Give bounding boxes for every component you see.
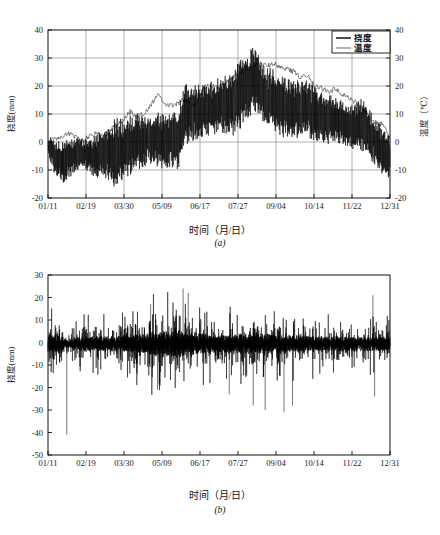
chart-a-ytick-label: 10 [35, 109, 44, 119]
chart-a-ytick-label: 0 [39, 137, 43, 147]
chart-b-series-residual [48, 292, 390, 395]
chart-a-yaxis-left-title: 挠度(mm) [6, 95, 16, 132]
chart-a-ytick-label: 30 [35, 53, 44, 63]
chart-a-xtick-label: 11/22 [342, 201, 361, 211]
chart-a-xtick-label: 05/09 [152, 201, 171, 211]
chart-a-ytick-label-right: 20 [395, 81, 404, 91]
chart-b-ytick-label: -10 [32, 360, 43, 370]
chart-a-xtick-label: 02/19 [76, 201, 95, 211]
chart-a-caption: (a) [0, 238, 440, 248]
chart-a-xaxis-label: 时间（月/日） [0, 222, 440, 237]
chart-b-ytick-label: -30 [32, 405, 43, 415]
chart-a-xtick-label: 01/11 [38, 201, 57, 211]
chart-a-ytick-label-right: 30 [395, 53, 404, 63]
chart-a-legend-label-1: 挠度 [354, 33, 372, 43]
chart-b-ytick-label: 30 [35, 270, 44, 280]
chart-b-ytick-label: -40 [32, 428, 43, 438]
chart-a-series-deflection [48, 48, 390, 186]
chart-b-xtick-label: 03/30 [114, 458, 133, 468]
chart-b-xaxis-label: 时间（月/日） [0, 487, 440, 502]
chart-b-xtick-label: 06/17 [190, 458, 209, 468]
chart-b-plot: -50-40-30-20-10010203001/1102/1903/3005/… [0, 265, 440, 490]
chart-b-xtick-label: 07/27 [228, 458, 247, 468]
chart-b-xtick-label: 12/31 [380, 458, 399, 468]
chart-b-caption: (b) [0, 505, 440, 515]
chart-a-ytick-label-right: 10 [395, 109, 404, 119]
chart-a-ytick-label-right: -10 [395, 165, 406, 175]
chart-b-ytick-label: 20 [35, 293, 44, 303]
chart-b-ytick-label: 0 [39, 338, 43, 348]
chart-b-xtick-label: 01/11 [38, 458, 57, 468]
chart-a-ytick-label-right: 0 [395, 137, 399, 147]
chart-a-xtick-label: 06/17 [190, 201, 209, 211]
chart-b-xtick-label: 11/22 [342, 458, 361, 468]
chart-a-legend-label-2: 温度 [354, 43, 372, 53]
chart-b-xtick-label: 05/09 [152, 458, 171, 468]
chart-a-ytick-label: -10 [32, 165, 43, 175]
chart-a-xtick-label: 07/27 [228, 201, 247, 211]
chart-a-xaxis: 01/1102/1903/3005/0906/1707/2709/0410/14… [38, 194, 399, 211]
chart-a-ytick-label-right: 40 [395, 25, 404, 35]
chart-a-xtick-label: 03/30 [114, 201, 133, 211]
chart-a-xtick-label: 10/14 [304, 201, 324, 211]
chart-a-legend: 挠度温度 [332, 31, 390, 53]
chart-a-yaxis-left: -20-10010203040 [32, 25, 52, 203]
chart-b-yaxis: -50-40-30-20-100102030 [32, 270, 52, 460]
chart-a-ytick-label: 20 [35, 81, 44, 91]
chart-a-xtick-label: 12/31 [380, 201, 399, 211]
chart-a-xtick-label: 09/04 [266, 201, 286, 211]
chart-b-ytick-label: 10 [35, 315, 44, 325]
panel-a: -20-10010203040-20-1001020304001/1102/19… [0, 0, 440, 268]
chart-b-xtick-label: 09/04 [266, 458, 286, 468]
chart-b-ytick-label: -20 [32, 383, 43, 393]
chart-b-xtick-label: 02/19 [76, 458, 95, 468]
chart-a-ytick-label: 40 [35, 25, 44, 35]
chart-b-spikes [67, 289, 375, 435]
chart-b-yaxis-title: 挠度(mm) [6, 346, 16, 383]
chart-b-xtick-label: 10/14 [304, 458, 324, 468]
panel-b: -50-40-30-20-10010203001/1102/1903/3005/… [0, 265, 440, 535]
chart-b-axes-frame [48, 275, 390, 455]
chart-b-xaxis: 01/1102/1903/3005/0906/1707/2709/0410/14… [38, 451, 399, 468]
chart-a-yaxis-right-title: 温度（℃） [419, 91, 429, 137]
figure-container: -20-10010203040-20-1001020304001/1102/19… [0, 0, 440, 535]
